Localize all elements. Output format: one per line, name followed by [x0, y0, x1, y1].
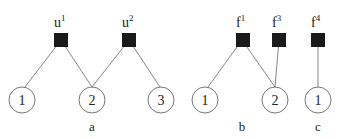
factor-u1 — [54, 33, 68, 47]
variable-label-1: 1 — [202, 93, 209, 108]
factor-f4 — [311, 33, 325, 47]
panel-label-c: c — [315, 119, 321, 134]
factor-label-u2: u2 — [122, 13, 134, 30]
factor-label-f3: f3 — [272, 13, 282, 30]
factor-graph-figure: u1 u2 1 2 3 a f1 f3 1 2 b f4 1 c — [0, 0, 346, 139]
panel-b: f1 f3 1 2 b — [192, 13, 288, 134]
panel-label-b: b — [239, 119, 246, 134]
factor-f3 — [272, 33, 286, 47]
panel-a: u1 u2 1 2 3 a — [9, 13, 174, 134]
variable-label-1: 1 — [315, 93, 322, 108]
factor-label-u1: u1 — [54, 13, 66, 30]
factor-label-f4: f4 — [311, 13, 321, 30]
variable-label-2: 2 — [272, 93, 279, 108]
variable-label-2: 2 — [89, 93, 96, 108]
edges — [25, 40, 318, 87]
variable-label-3: 3 — [158, 93, 165, 108]
factor-label-f1: f1 — [236, 13, 245, 30]
variable-label-1: 1 — [19, 93, 26, 108]
panel-label-a: a — [89, 119, 95, 134]
factor-u2 — [122, 33, 136, 47]
factor-f1 — [236, 33, 250, 47]
